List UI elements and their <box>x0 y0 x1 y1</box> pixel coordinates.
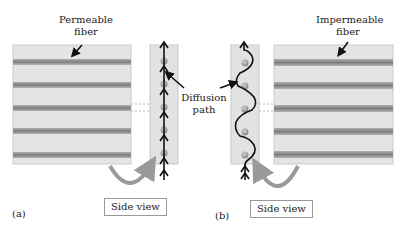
side-view-column-b <box>231 42 259 180</box>
label-line: Diffusion <box>180 92 228 104</box>
side-view-label-b: Side view <box>250 200 313 218</box>
label-line: Impermeable <box>316 14 380 26</box>
curved-arrow-b <box>258 166 298 186</box>
side-view-column-a <box>150 42 178 180</box>
permeable-fiber-block <box>13 45 131 164</box>
permeable-fiber-label: Permeable fiber <box>58 14 114 38</box>
label-line: fiber <box>58 26 114 38</box>
curved-arrow-a <box>110 166 150 183</box>
impermeable-fiber-label: Impermeable fiber <box>316 14 380 38</box>
impermeable-fiber-block <box>274 45 393 164</box>
label-line: path <box>180 104 228 116</box>
diffusion-path-label: Diffusion path <box>180 92 228 116</box>
panel-letter-b: (b) <box>215 210 229 221</box>
label-line: Permeable <box>58 14 114 26</box>
side-view-label-a: Side view <box>104 198 167 216</box>
panel-letter-a: (a) <box>12 208 26 219</box>
label-line: fiber <box>316 26 380 38</box>
